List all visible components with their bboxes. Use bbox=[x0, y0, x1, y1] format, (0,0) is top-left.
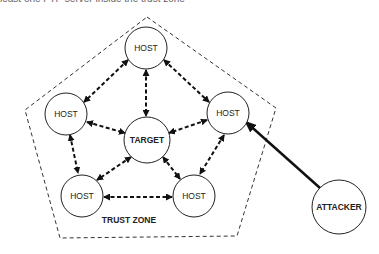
link-top-right bbox=[164, 60, 209, 102]
trust-zone-diagram: HOST HOST HOST TARGET HOST HOST ATTACKER… bbox=[0, 0, 379, 254]
host-top-label: HOST bbox=[134, 43, 158, 53]
attacker-label: ATTACKER bbox=[316, 202, 361, 212]
link-left-target bbox=[87, 122, 125, 133]
host-bottom-left-label: HOST bbox=[70, 191, 94, 201]
link-top-left bbox=[84, 60, 128, 102]
trust-zone-label: TRUST ZONE bbox=[102, 215, 157, 225]
attack-arrow bbox=[246, 122, 320, 188]
link-right-bottomright bbox=[200, 135, 224, 174]
link-right-target bbox=[169, 120, 207, 133]
host-right-label: HOST bbox=[216, 108, 240, 118]
link-left-bottomleft bbox=[70, 135, 78, 173]
host-left-label: HOST bbox=[54, 109, 78, 119]
target-label: TARGET bbox=[130, 135, 165, 145]
link-target-bottomright bbox=[163, 157, 180, 179]
host-bottom-right-label: HOST bbox=[182, 191, 206, 201]
link-target-bottomleft bbox=[97, 157, 131, 180]
